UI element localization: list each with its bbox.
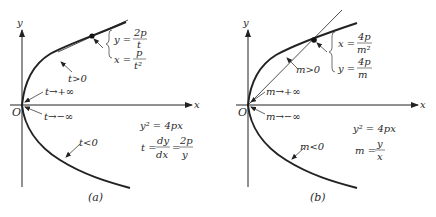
param-x-den: m² (357, 44, 371, 55)
param-y-lhs: y = (113, 34, 131, 45)
eq2-den: x (377, 151, 383, 162)
eq2-num1: dy (157, 135, 169, 146)
origin-label: O (12, 106, 21, 119)
param-x-den: t² (134, 60, 142, 71)
limit-upper-arrow (251, 92, 265, 102)
param-y-lhs: y = (337, 63, 355, 74)
y-axis-label: y (242, 17, 249, 28)
t-negative-arrow (66, 144, 80, 157)
limit-upper-label: t→+∞ (45, 86, 74, 97)
brace (106, 30, 112, 58)
eq2-lhs: m = (355, 145, 376, 156)
diagram-canvas: y x O y = 2p t x = p t² t>0 t→+∞ t→−∞ (0, 0, 436, 217)
parabola-lower-branch (22, 105, 130, 188)
lower-branch-label: m<0 (300, 141, 325, 152)
panel-a: y x O y = 2p t x = p t² t>0 t→+∞ t→−∞ (10, 17, 200, 204)
param-x-lhs: x = (114, 54, 131, 65)
limit-upper-label: m→+∞ (266, 86, 301, 97)
limit-lower-label: m→−∞ (266, 111, 301, 122)
param-x-lhs: x = (338, 38, 355, 49)
limit-lower-label: t→−∞ (44, 111, 73, 122)
point-arrow (94, 39, 103, 48)
curve-point (89, 33, 94, 38)
panel-b: y x O x = 4p m² y = 4p m m>0 m→+∞ m→−∞ m… (236, 10, 426, 204)
limit-upper-arrow (25, 92, 43, 102)
t-positive-arrow (61, 62, 72, 72)
param-y-num: 4p (357, 56, 371, 67)
param-y-num: 2p (133, 27, 147, 38)
eq2-lhs: t = (141, 142, 157, 153)
y-axis-label: y (16, 17, 23, 28)
eq2-num: y (376, 138, 383, 149)
eq2-den1: dx (156, 149, 168, 160)
x-axis-label: x (420, 99, 426, 110)
brace (329, 32, 335, 72)
caption-b: (b) (310, 191, 326, 204)
point-arrow (317, 43, 327, 52)
origin-label: O (238, 106, 247, 119)
equation-parabola: y² = 4px (352, 123, 396, 134)
lower-branch-label: t<0 (79, 137, 98, 148)
upper-branch-label: t>0 (68, 73, 87, 84)
param-y-den: m (358, 69, 367, 80)
x-axis-label: x (194, 99, 200, 110)
curve-point (311, 37, 317, 43)
equation-parabola: y² = 4px (139, 120, 183, 131)
upper-branch-label: m>0 (296, 64, 321, 75)
limit-lower-arrow (251, 107, 265, 114)
limit-lower-arrow (25, 107, 42, 114)
param-x-num: p (136, 47, 143, 58)
eq2-den2: y (181, 149, 188, 160)
caption-a: (a) (88, 191, 103, 204)
eq2-num2: 2p (179, 135, 193, 146)
param-x-num: 4p (357, 31, 371, 42)
